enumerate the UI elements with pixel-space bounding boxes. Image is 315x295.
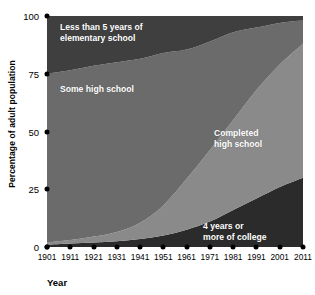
y-tick-dot-100	[45, 14, 50, 19]
y-tick-label-50: 50	[11, 126, 39, 137]
series-label-some-high-school: Some high school	[60, 84, 134, 95]
x-tick-label-1971: 1971	[197, 252, 223, 262]
x-tick-dot-1901	[45, 245, 50, 250]
stacked-area-chart: Percentage of adult population 025507510…	[0, 0, 315, 295]
x-tick-label-1991: 1991	[243, 252, 269, 262]
series-label-college: 4 years or more of college	[203, 221, 267, 243]
y-tick-dot-50	[45, 129, 50, 134]
x-tick-label-1961: 1961	[174, 252, 200, 262]
x-tick-dot-1961	[184, 245, 189, 250]
x-tick-dot-1991	[254, 245, 259, 250]
x-tick-label-1951: 1951	[150, 252, 176, 262]
x-tick-dot-2001	[277, 245, 282, 250]
x-tick-label-1921: 1921	[81, 252, 107, 262]
x-tick-dot-1981	[231, 245, 236, 250]
x-axis-title: Year	[47, 277, 67, 288]
x-tick-label-1941: 1941	[127, 252, 153, 262]
x-tick-dot-1951	[161, 245, 166, 250]
y-tick-dot-25	[45, 187, 50, 192]
y-tick-dot-75	[45, 71, 50, 76]
x-tick-dot-1971	[207, 245, 212, 250]
y-axis-title: Percentage of adult population	[7, 8, 17, 240]
series-label-elementary: Less than 5 years of elementary school	[60, 22, 143, 44]
y-tick-label-100: 100	[11, 11, 39, 22]
x-tick-dot-2011	[301, 245, 306, 250]
x-tick-label-1981: 1981	[220, 252, 246, 262]
x-tick-label-2011: 2011	[290, 252, 315, 262]
y-tick-label-75: 75	[11, 68, 39, 79]
area-series-group	[47, 16, 303, 247]
x-tick-dot-1931	[114, 245, 119, 250]
x-tick-label-1911: 1911	[57, 252, 83, 262]
y-tick-label-0: 0	[11, 242, 39, 253]
x-tick-dot-1911	[68, 245, 73, 250]
x-tick-label-1931: 1931	[104, 252, 130, 262]
x-tick-label-2001: 2001	[267, 252, 293, 262]
y-tick-label-25: 25	[11, 184, 39, 195]
series-label-completed-high-school: Completed high school	[214, 128, 262, 150]
plot-area	[47, 16, 303, 247]
x-tick-dot-1941	[138, 245, 143, 250]
x-tick-dot-1921	[91, 245, 96, 250]
x-tick-label-1901: 1901	[34, 252, 60, 262]
